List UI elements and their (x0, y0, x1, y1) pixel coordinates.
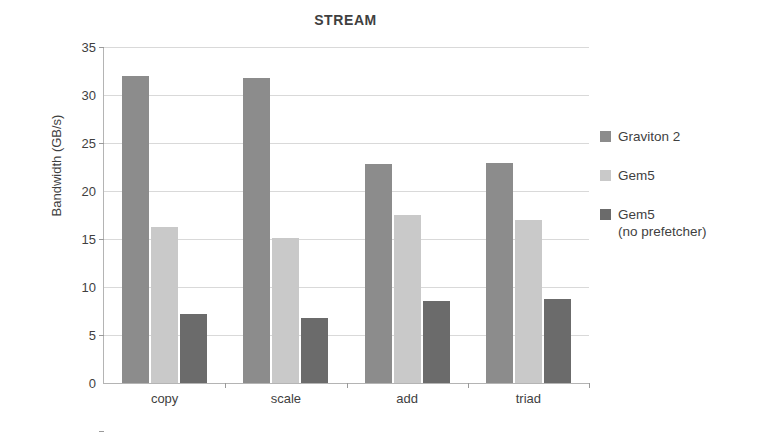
y-tick-mark (99, 47, 104, 48)
y-tick-mark (99, 239, 104, 240)
y-tick-mark (99, 335, 104, 336)
chart-title: STREAM (103, 12, 588, 28)
bar-group-scale (243, 47, 328, 383)
y-tick-mark (99, 143, 104, 144)
y-tick-label: 25 (82, 136, 96, 151)
bar-group-add (365, 47, 450, 383)
bar-copy-series-1 (151, 227, 178, 383)
plot-area: 05101520253035 copyscaleaddtriad (103, 47, 589, 384)
y-axis-title: Bandwidth (GB/s) (49, 66, 64, 266)
legend-item-0[interactable]: Graviton 2 (600, 128, 775, 145)
bar-group-triad (486, 47, 571, 383)
legend-label: Graviton 2 (618, 128, 680, 145)
legend-swatch-icon (600, 131, 611, 142)
legend-label: Gem5 (no prefetcher) (618, 206, 707, 240)
bar-add-series-1 (394, 215, 421, 383)
x-tick-mark (347, 383, 348, 388)
bar-triad-series-0 (486, 163, 513, 383)
bar-scale-series-1 (272, 238, 299, 383)
stream-bandwidth-bar-chart: STREAM Bandwidth (GB/s) 05101520253035 c… (0, 0, 779, 432)
bar-copy-series-0 (122, 76, 149, 383)
bar-scale-series-0 (243, 78, 270, 383)
bar-add-series-2 (423, 301, 450, 383)
x-tick-label-scale: scale (271, 391, 301, 406)
y-tick-label: 15 (82, 232, 96, 247)
bar-copy-series-2 (180, 314, 207, 383)
bar-scale-series-2 (301, 318, 328, 383)
y-tick-label: 35 (82, 40, 96, 55)
legend-item-2[interactable]: Gem5 (no prefetcher) (600, 206, 775, 240)
bar-add-series-0 (365, 164, 392, 383)
y-tick-label: 30 (82, 88, 96, 103)
legend-label: Gem5 (618, 167, 655, 184)
bar-triad-series-1 (515, 220, 542, 383)
x-tick-label-triad: triad (516, 391, 541, 406)
x-tick-label-copy: copy (151, 391, 178, 406)
bar-group-copy (122, 47, 207, 383)
y-tick-label: 10 (82, 280, 96, 295)
x-tick-mark (225, 383, 226, 388)
bar-triad-series-2 (544, 299, 571, 383)
legend-item-1[interactable]: Gem5 (600, 167, 775, 184)
legend-swatch-icon (600, 209, 611, 220)
y-tick-label: 20 (82, 184, 96, 199)
y-tick-label: 5 (89, 328, 96, 343)
x-tick-label-add: add (396, 391, 418, 406)
x-tick-mark (468, 383, 469, 388)
chart-legend: Graviton 2Gem5Gem5 (no prefetcher) (600, 128, 775, 262)
y-tick-label: 0 (89, 376, 96, 391)
legend-swatch-icon (600, 170, 611, 181)
x-tick-mark (589, 383, 590, 388)
